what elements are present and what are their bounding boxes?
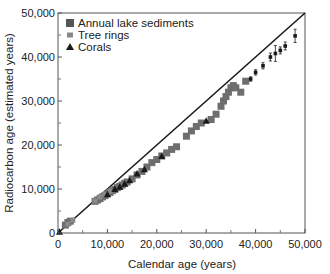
legend-triangle-icon (66, 43, 74, 50)
y-axis-ticks: 010,00020,00030,00040,00050,000 (21, 7, 62, 239)
x-axis-title: Calendar age (years) (128, 258, 236, 270)
data-points (56, 29, 297, 234)
x-axis-ticks: 010,00020,00030,00040,00050,000 (55, 229, 322, 250)
tree-ring-point (70, 218, 75, 223)
y-tick-label: 0 (49, 227, 55, 239)
dated-point (249, 77, 253, 81)
y-tick-label: 30,000 (21, 95, 55, 107)
radiocarbon-chart: 010,00020,00030,00040,00050,000 010,0002… (0, 0, 330, 274)
x-tick-label: 0 (55, 238, 61, 250)
lake-sediment-point (237, 89, 244, 96)
tree-ring-point (93, 198, 98, 203)
dated-point (274, 52, 278, 56)
x-tick-label: 30,000 (189, 238, 223, 250)
legend-label: Tree rings (78, 29, 130, 41)
legend-label: Corals (78, 41, 111, 53)
dated-point (279, 49, 283, 53)
y-axis-title: Radiocarbon age (estimated years) (3, 33, 15, 213)
dated-point (293, 34, 297, 38)
x-tick-label: 10,000 (91, 238, 125, 250)
x-tick-label: 20,000 (140, 238, 174, 250)
x-tick-label: 50,000 (288, 238, 322, 250)
lake-sediment-point (213, 111, 220, 118)
y-tick-label: 10,000 (21, 183, 55, 195)
tree-ring-point (65, 222, 70, 227)
dated-point (254, 71, 258, 75)
legend-square-icon (66, 19, 74, 27)
legend-small-square-icon (67, 33, 73, 38)
y-tick-label: 40,000 (21, 51, 55, 63)
legend: Annual lake sedimentsTree ringsCorals (66, 17, 194, 53)
y-tick-label: 50,000 (21, 7, 55, 19)
y-tick-label: 20,000 (21, 139, 55, 151)
legend-label: Annual lake sediments (78, 17, 194, 29)
x-tick-label: 40,000 (239, 238, 273, 250)
lake-sediment-point (173, 143, 180, 150)
dated-point (261, 64, 265, 68)
dated-point (269, 55, 273, 59)
dated-point (283, 44, 287, 48)
lake-sediment-point (242, 78, 249, 85)
tree-ring-point (97, 194, 102, 199)
